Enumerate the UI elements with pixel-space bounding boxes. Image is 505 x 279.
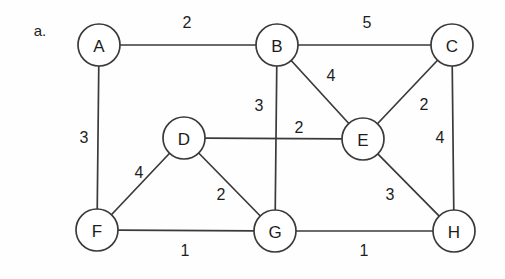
edge-weight-b-g: 3 [255, 97, 264, 114]
graph-edge-a-f [97, 66, 99, 209]
edge-weight-d-e: 2 [295, 119, 304, 136]
edge-weight-f-g: 1 [181, 242, 190, 259]
graph-node-h: H [433, 210, 475, 252]
edges-layer [97, 45, 454, 231]
graph-node-g: G [254, 210, 296, 252]
node-label-a: A [93, 37, 105, 56]
edge-weight-a-b: 2 [183, 14, 192, 31]
node-label-d: D [178, 130, 190, 149]
node-label-c: C [446, 37, 458, 56]
edge-weight-g-h: 1 [360, 242, 369, 259]
figure-item-marker: a. [34, 22, 47, 39]
node-label-e: E [357, 131, 368, 150]
graph-node-e: E [342, 118, 384, 160]
graph-canvas: ABCDEFGH 2534324242311 a. [0, 0, 505, 279]
graph-edge-c-e [377, 60, 437, 124]
graph-edge-d-g [199, 153, 261, 216]
graph-edge-b-e [291, 60, 349, 123]
edge-weight-b-e: 4 [327, 67, 336, 84]
graph-node-b: B [256, 24, 298, 66]
edge-weight-a-f: 3 [80, 129, 89, 146]
graph-node-d: D [163, 117, 205, 159]
node-label-h: H [448, 223, 460, 242]
graph-edge-d-e [205, 138, 342, 139]
edge-weight-c-e: 2 [420, 96, 429, 113]
graph-edge-d-f [111, 153, 169, 214]
graph-node-a: A [78, 24, 120, 66]
graph-node-f: F [76, 209, 118, 251]
node-label-f: F [92, 222, 102, 241]
graph-edge-f-g [118, 230, 254, 231]
edge-weight-b-c: 5 [363, 14, 372, 31]
graph-diagram: ABCDEFGH 2534324242311 a. [0, 0, 505, 279]
graph-edge-c-h [452, 66, 454, 210]
edge-weight-c-h: 4 [436, 129, 445, 146]
node-label-g: G [268, 223, 281, 242]
edge-weight-e-h: 3 [386, 186, 395, 203]
edge-weight-d-f: 4 [135, 164, 144, 181]
edge-weight-d-g: 2 [217, 186, 226, 203]
node-label-b: B [271, 37, 282, 56]
graph-node-c: C [431, 24, 473, 66]
